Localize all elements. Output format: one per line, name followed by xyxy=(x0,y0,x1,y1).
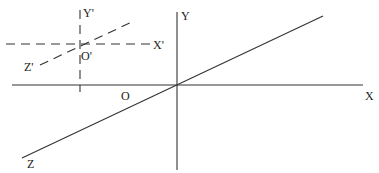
world-origin-label: O xyxy=(121,89,130,103)
world-z-label: Z xyxy=(27,157,34,171)
local-z-label: Z' xyxy=(24,60,34,74)
local-y-label: Y' xyxy=(83,6,94,20)
world-y-label: Y xyxy=(181,9,190,23)
world-z-axis xyxy=(22,16,323,158)
local-x-label: X' xyxy=(153,38,164,52)
coordinate-diagram: Y X Z O Y' X' Z' O' xyxy=(0,0,379,173)
local-origin-label: O' xyxy=(81,49,92,63)
world-x-label: X xyxy=(365,89,374,103)
